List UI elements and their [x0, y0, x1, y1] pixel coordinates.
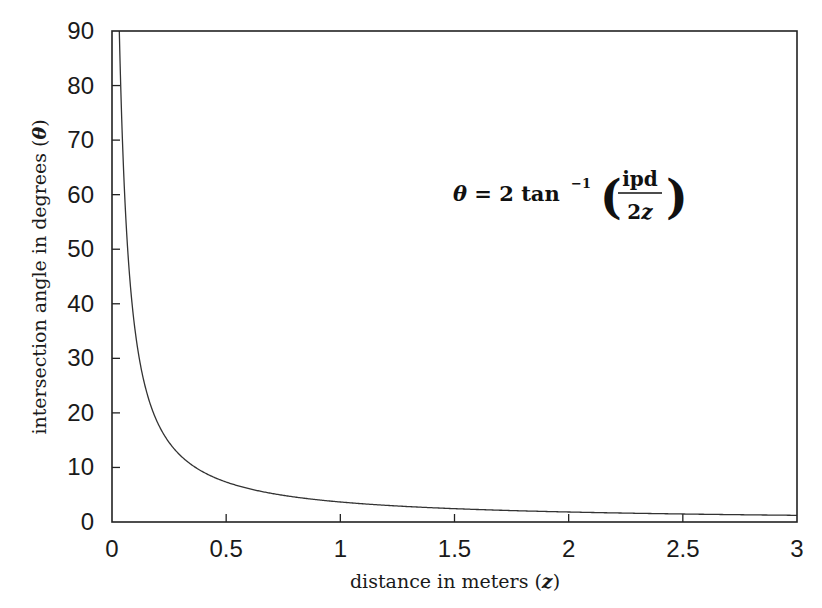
y-tick-label: 40 [67, 290, 94, 317]
svg-text:−1: −1 [571, 176, 591, 191]
x-tick-label: 1.5 [438, 535, 471, 562]
plot-frame [112, 31, 797, 522]
x-tick-label: 2.5 [666, 535, 699, 562]
chart: 0102030405060708090 00.511.522.53 distan… [0, 0, 822, 608]
equation-annotation: θ = 2 tan −1 ( ipd 2z ) [453, 167, 688, 224]
x-tick-label: 2 [562, 535, 575, 562]
data-line [114, 0, 797, 515]
y-tick-label: 80 [67, 72, 94, 99]
svg-text:): ) [666, 170, 688, 224]
y-tick-label: 20 [67, 399, 94, 426]
y-tick-label: 30 [67, 344, 94, 371]
y-tick-label: 70 [67, 126, 94, 153]
y-tick-label: 10 [67, 453, 94, 480]
svg-text:θ = 2 tan: θ = 2 tan [453, 181, 560, 206]
y-tick-label: 0 [81, 508, 94, 535]
x-tick-label: 1 [334, 535, 347, 562]
x-tick-label: 0 [105, 535, 118, 562]
x-axis-label: distance in meters (z) [350, 570, 560, 592]
x-tick-label: 3 [790, 535, 803, 562]
svg-text:2z: 2z [627, 200, 653, 224]
y-axis-label: intersection angle in degrees (θ) [28, 119, 50, 434]
y-tick-label: 90 [67, 17, 94, 44]
y-tick-label: 50 [67, 235, 94, 262]
x-tick-label: 0.5 [209, 535, 242, 562]
y-tick-label: 60 [67, 181, 94, 208]
svg-text:(: ( [600, 170, 622, 224]
svg-text:ipd: ipd [622, 167, 658, 191]
